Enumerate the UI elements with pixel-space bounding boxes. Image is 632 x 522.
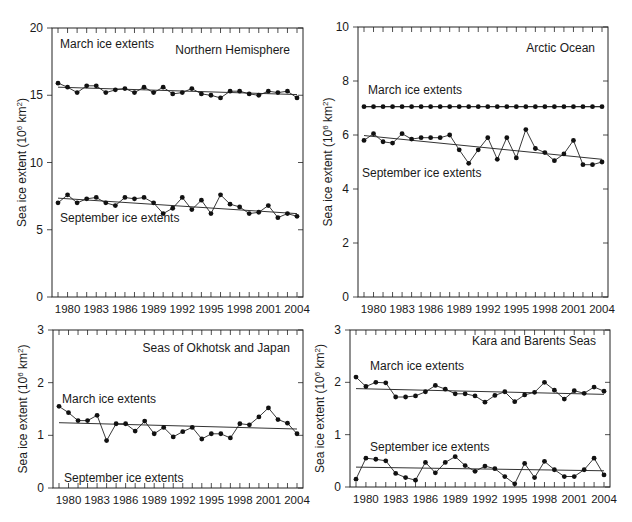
- data-point: [571, 138, 576, 143]
- data-point: [285, 421, 290, 426]
- data-point: [218, 431, 223, 436]
- data-point: [218, 192, 223, 197]
- data-point: [433, 383, 438, 388]
- y-tick-label: 0: [36, 290, 43, 304]
- data-point: [190, 425, 195, 430]
- data-point: [463, 391, 468, 396]
- panel-kara-barents: 1980198319861989199219951998200120040123…: [313, 323, 618, 505]
- trend-line: [364, 136, 602, 160]
- data-point: [473, 394, 478, 399]
- data-point: [592, 456, 597, 461]
- data-point: [403, 475, 408, 480]
- data-point: [103, 200, 108, 205]
- y-tick-label: 10: [336, 20, 350, 34]
- data-point: [362, 138, 367, 143]
- x-tick-label: 2001: [561, 303, 587, 315]
- data-point: [123, 195, 128, 200]
- x-tick-label: 2004: [591, 493, 617, 505]
- x-tick-label: 1986: [413, 493, 439, 505]
- data-point: [466, 104, 471, 109]
- data-point: [457, 104, 462, 109]
- data-point: [590, 162, 595, 167]
- data-point: [161, 211, 166, 216]
- data-point: [373, 457, 378, 462]
- data-point: [393, 471, 398, 476]
- data-point: [237, 89, 242, 94]
- data-point: [180, 429, 185, 434]
- data-point: [371, 131, 376, 136]
- x-tick-label: 2004: [589, 303, 615, 315]
- data-point: [171, 435, 176, 440]
- data-point: [256, 93, 261, 98]
- data-point: [199, 437, 204, 442]
- data-point: [512, 399, 517, 404]
- x-tick-label: 1992: [170, 494, 196, 506]
- data-point: [57, 404, 62, 409]
- data-point: [390, 141, 395, 146]
- data-point: [247, 211, 252, 216]
- x-tick-label: 1989: [442, 493, 468, 505]
- x-tick-label: 1998: [532, 303, 558, 315]
- data-point: [85, 418, 90, 423]
- data-point: [447, 104, 452, 109]
- data-point: [495, 104, 500, 109]
- data-point: [495, 157, 500, 162]
- data-point: [295, 214, 300, 219]
- data-point: [56, 200, 61, 205]
- data-point: [180, 195, 185, 200]
- data-point: [383, 380, 388, 385]
- data-point: [373, 380, 378, 385]
- x-tick-label: 1983: [83, 303, 109, 315]
- data-point: [152, 431, 157, 436]
- panel-title: Kara and Barents Seas: [472, 334, 596, 348]
- data-point: [562, 474, 567, 479]
- data-point: [180, 90, 185, 95]
- data-point: [542, 104, 547, 109]
- data-point: [65, 192, 70, 197]
- x-tick-label: 1980: [361, 303, 387, 315]
- data-point: [542, 150, 547, 155]
- data-point: [443, 460, 448, 465]
- data-point: [218, 96, 223, 101]
- y-axis-label: Sea ice extent (106 km2): [313, 344, 328, 473]
- data-point: [438, 135, 443, 140]
- data-point: [354, 477, 359, 482]
- y-tick-label: 2: [37, 376, 44, 390]
- data-point: [209, 93, 214, 98]
- data-point: [457, 147, 462, 152]
- data-point: [600, 160, 605, 165]
- data-point: [142, 195, 147, 200]
- data-point: [400, 131, 405, 136]
- data-point: [170, 206, 175, 211]
- data-point: [552, 158, 557, 163]
- data-point: [228, 89, 233, 94]
- plot-frame: [52, 28, 303, 297]
- y-tick-label: 20: [30, 21, 44, 35]
- x-tick-label: 2001: [256, 303, 282, 315]
- data-point: [433, 470, 438, 475]
- data-point: [393, 395, 398, 400]
- data-point: [295, 431, 300, 436]
- y-tick-label: 1: [37, 428, 44, 442]
- data-point: [502, 389, 507, 394]
- data-point: [364, 456, 369, 461]
- data-point: [602, 473, 607, 478]
- plot-frame: [358, 27, 608, 297]
- data-point: [600, 104, 605, 109]
- x-tick-label: 1983: [383, 493, 409, 505]
- data-point: [572, 474, 577, 479]
- data-point: [295, 96, 300, 101]
- data-point: [403, 395, 408, 400]
- data-point: [423, 460, 428, 465]
- data-point: [483, 464, 488, 469]
- data-point: [237, 204, 242, 209]
- y-tick-label: 4: [342, 182, 349, 196]
- data-point: [533, 146, 538, 151]
- data-point: [275, 90, 280, 95]
- series-label: March ice extents: [60, 37, 154, 51]
- panel-title: Seas of Okhotsk and Japan: [143, 341, 290, 355]
- data-point: [504, 104, 509, 109]
- x-tick-label: 1992: [169, 303, 195, 315]
- data-point: [228, 202, 233, 207]
- data-point: [151, 90, 156, 95]
